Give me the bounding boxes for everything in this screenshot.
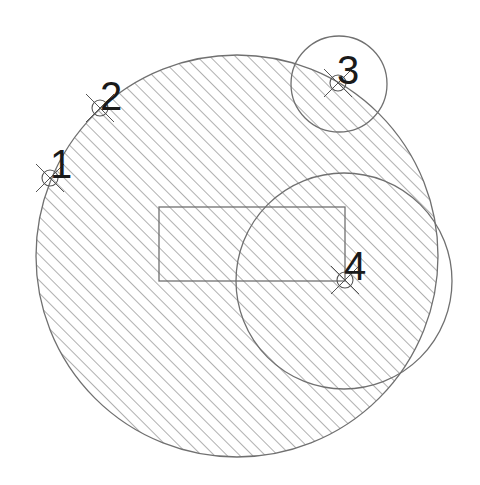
diagram-canvas: 1234 [0, 0, 480, 485]
point-label-2: 2 [100, 74, 122, 118]
point-label-3: 3 [337, 48, 359, 92]
point-label-4: 4 [344, 244, 366, 288]
point-label-1: 1 [50, 142, 72, 186]
